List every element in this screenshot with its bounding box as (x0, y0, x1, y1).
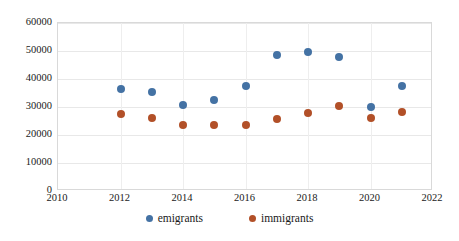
x-tick-label-2018: 2018 (287, 193, 327, 204)
x-tick-label-2014: 2014 (162, 193, 202, 204)
legend-label-immigrants: immigrants (261, 213, 313, 225)
x-tick-label-2012: 2012 (100, 193, 140, 204)
chart-legend: emigrantsimmigrants (0, 213, 459, 225)
legend-item-emigrants[interactable]: emigrants (146, 213, 203, 225)
legend-label-emigrants: emigrants (158, 213, 203, 225)
x-axis-tick-labels: 2010201220142016201820202022 (0, 0, 459, 241)
legend-item-immigrants[interactable]: immigrants (249, 213, 313, 225)
x-tick-label-2010: 2010 (37, 193, 77, 204)
x-tick-label-2016: 2016 (225, 193, 265, 204)
legend-marker-icon-immigrants (249, 215, 256, 222)
scatter-chart: 0100002000030000400005000060000 20102012… (0, 0, 459, 241)
x-tick-label-2020: 2020 (350, 193, 390, 204)
x-tick-label-2022: 2022 (412, 193, 452, 204)
legend-marker-icon-emigrants (146, 215, 153, 222)
